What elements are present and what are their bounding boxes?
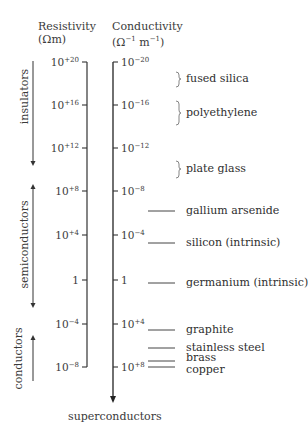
semiconductors-arrow-up-icon <box>31 184 36 189</box>
conductivity-tick-label: 10−16 <box>121 99 149 111</box>
resistivity-tick-label: 10+20 <box>51 56 79 68</box>
resistivity-tick-label: 10+4 <box>55 229 79 241</box>
material-markers <box>148 211 175 367</box>
resistivity-tick-label: 10+12 <box>51 142 79 154</box>
material-label: germanium (intrinsic) <box>186 277 308 289</box>
superconductors-label: superconductors <box>68 410 162 423</box>
conductivity-tick-label: 10−4 <box>121 229 145 241</box>
material-label: graphite <box>186 324 233 336</box>
resistivity-ticks <box>82 62 87 367</box>
material-label: copper <box>186 364 225 376</box>
plate-glass-bracket <box>176 161 181 178</box>
conductivity-arrow-down-icon <box>110 396 116 403</box>
resistivity-tick-label: 10+8 <box>55 185 79 197</box>
conductors-arrow-up-icon <box>31 335 36 340</box>
resistivity-tick-label: 1 <box>72 274 79 286</box>
conductivity-tick-label: 10−20 <box>121 56 149 68</box>
material-label: plate glass <box>186 163 246 175</box>
material-label: fused silica <box>186 73 249 85</box>
semiconductors-label: semiconductors <box>18 195 31 295</box>
resistivity-tick-label: 10−8 <box>55 361 79 373</box>
insulators-arrow-down-icon <box>31 161 36 166</box>
material-label: gallium arsenide <box>186 205 279 217</box>
conductivity-title: Conductivity <box>112 20 183 33</box>
conductivity-tick-label: 1 <box>121 274 128 286</box>
conductivity-tick-label: 10+4 <box>121 318 145 330</box>
resistivity-unit: (Ωm) <box>38 33 66 46</box>
semiconductors-arrow-down-icon <box>31 303 36 308</box>
conductivity-ticks <box>113 62 118 367</box>
resistivity-tick-label: 10−4 <box>55 318 79 330</box>
material-label: polyethylene <box>186 107 257 119</box>
insulators-label: insulators <box>18 67 31 127</box>
conductivity-tick-label: 10−12 <box>121 142 149 154</box>
polyethylene-bracket <box>176 101 181 125</box>
resistivity-title: Resistivity <box>38 20 96 33</box>
conductivity-unit: (Ω−1 m−1) <box>112 33 164 49</box>
conductivity-tick-label: 10+8 <box>121 361 145 373</box>
diagram-lines <box>0 0 308 438</box>
conductors-label: conductors <box>12 330 25 390</box>
fused-silica-bracket <box>176 72 181 87</box>
conductivity-tick-label: 10−8 <box>121 185 145 197</box>
resistivity-tick-label: 10+16 <box>51 99 79 111</box>
material-label: silicon (intrinsic) <box>186 237 280 249</box>
